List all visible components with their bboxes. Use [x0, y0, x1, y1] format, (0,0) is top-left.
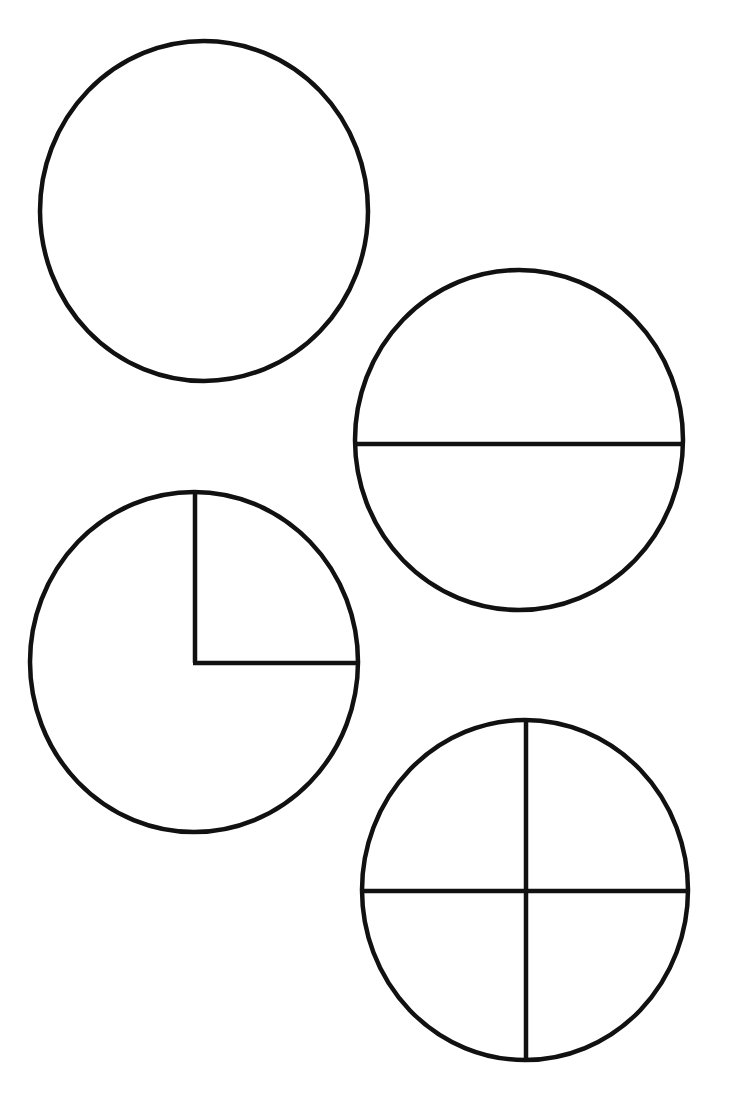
circle-outline [40, 41, 368, 381]
circle-halves [355, 270, 683, 610]
fraction-circles-diagram [0, 0, 735, 1096]
circle-quarter-marked [30, 492, 358, 832]
circle-outline [355, 270, 683, 610]
circle-whole [40, 41, 368, 381]
circle-quarters [362, 720, 688, 1060]
